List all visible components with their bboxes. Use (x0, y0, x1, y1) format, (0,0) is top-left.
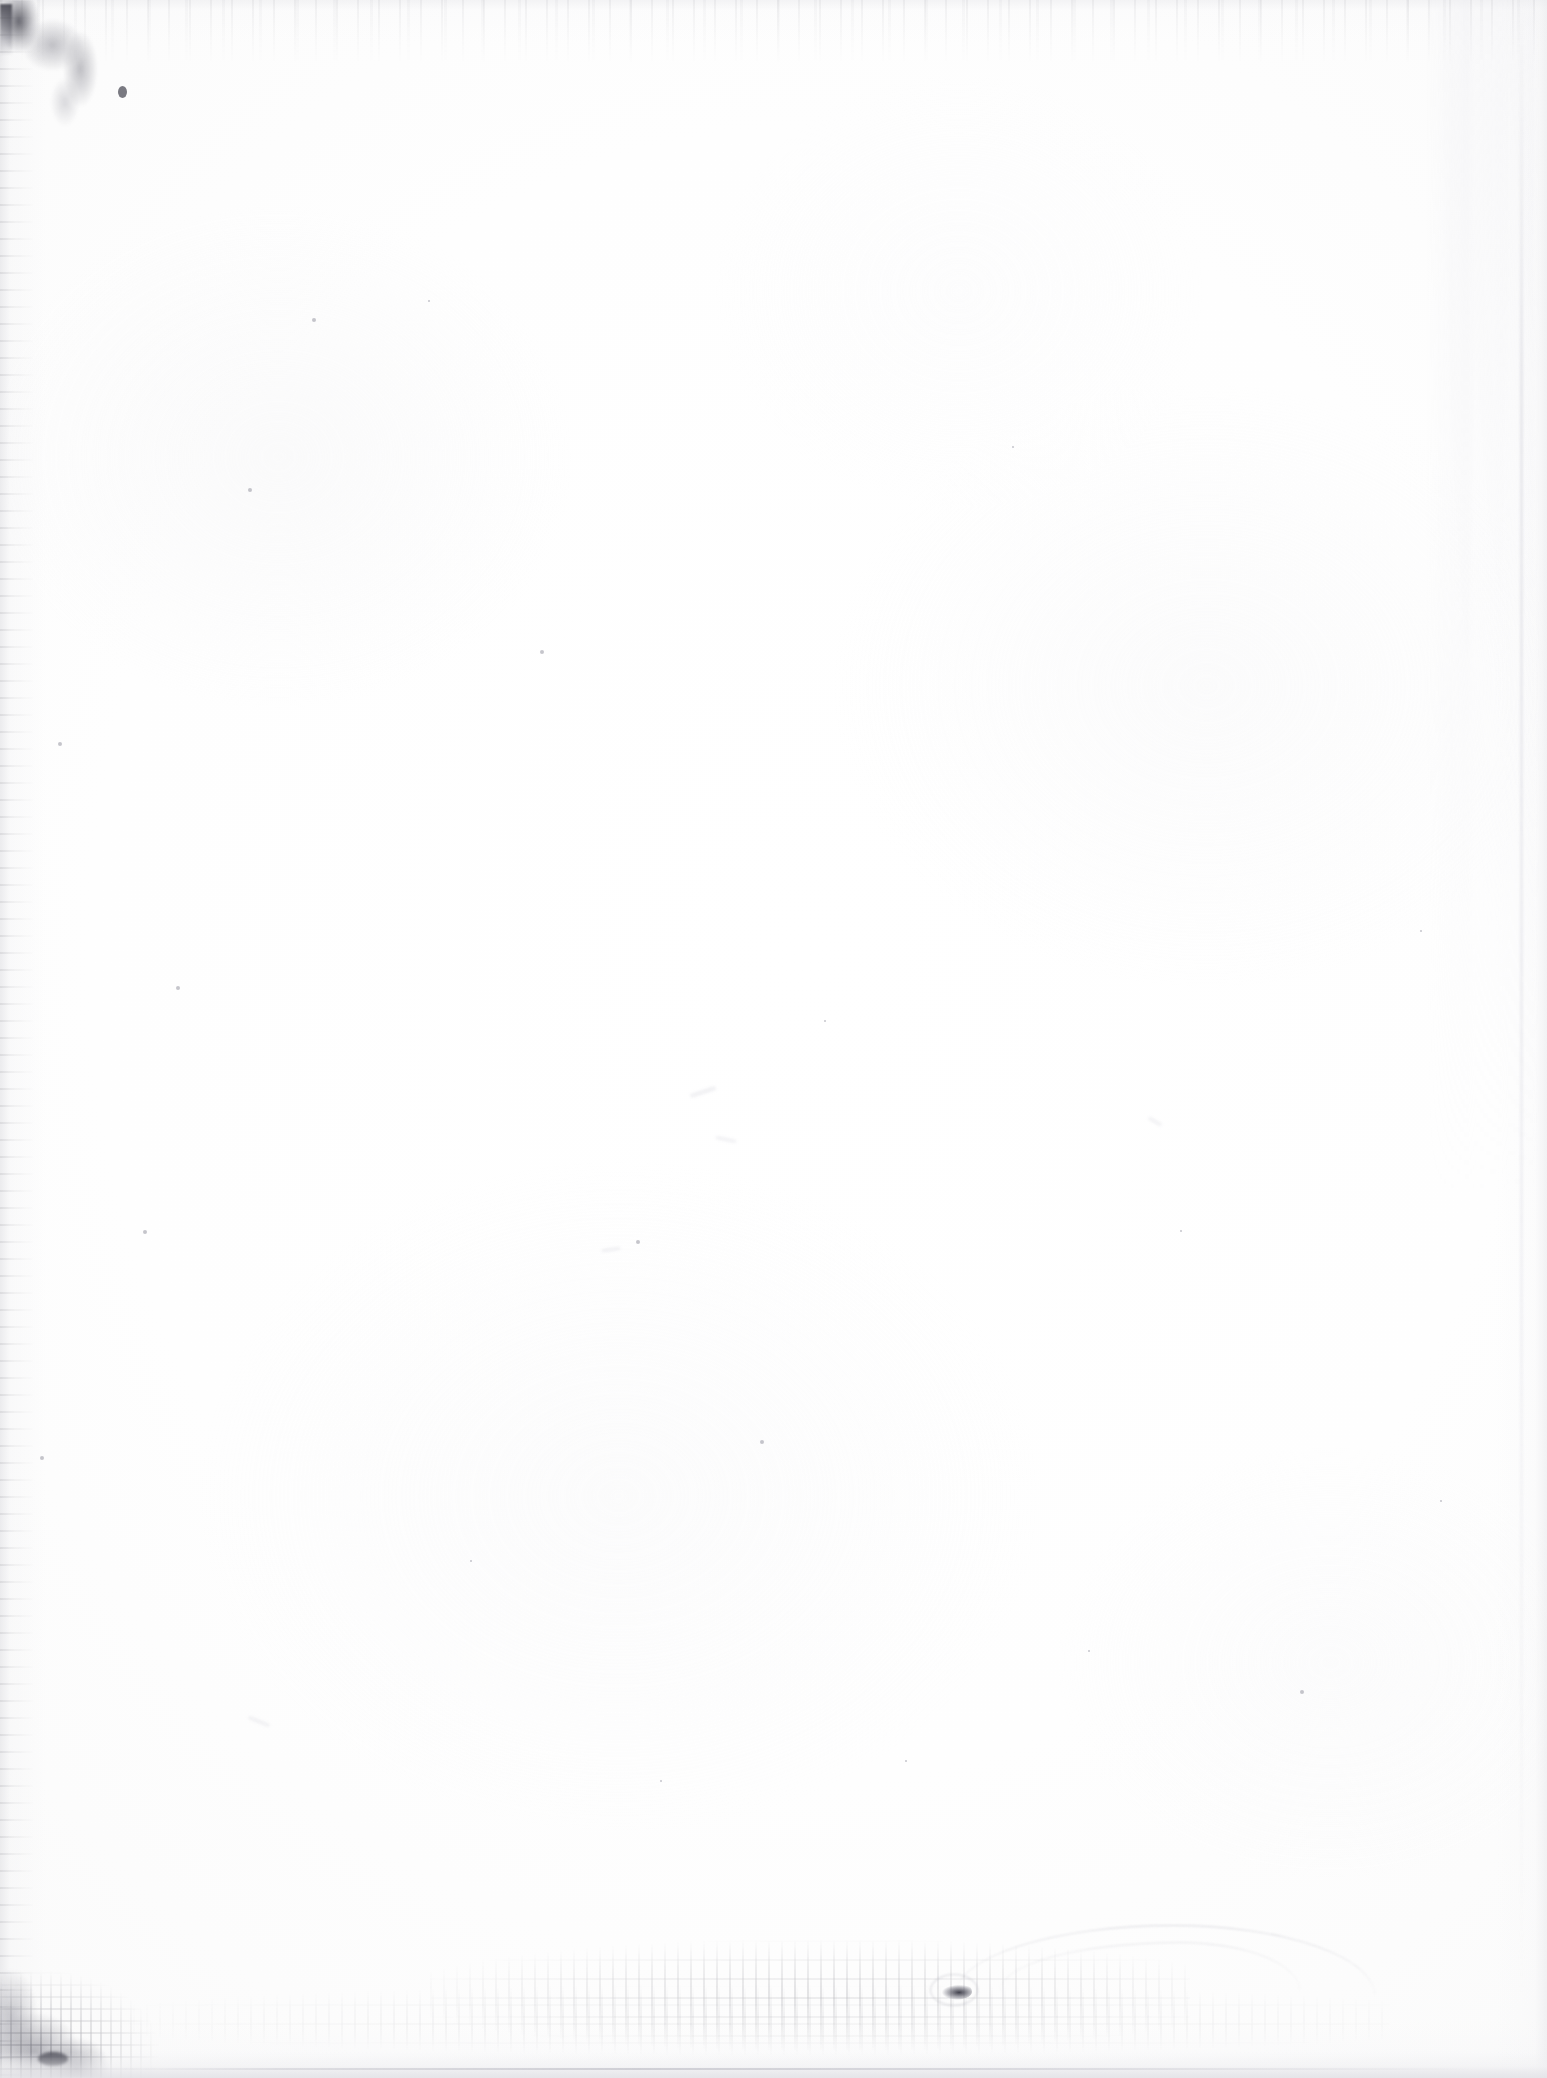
bottom-edge-hairline (120, 2068, 1477, 2070)
paper-grain-coarse (0, 0, 1547, 2078)
scanned-page (0, 0, 1547, 2078)
bottom-edge-gray-band (0, 2052, 1547, 2078)
